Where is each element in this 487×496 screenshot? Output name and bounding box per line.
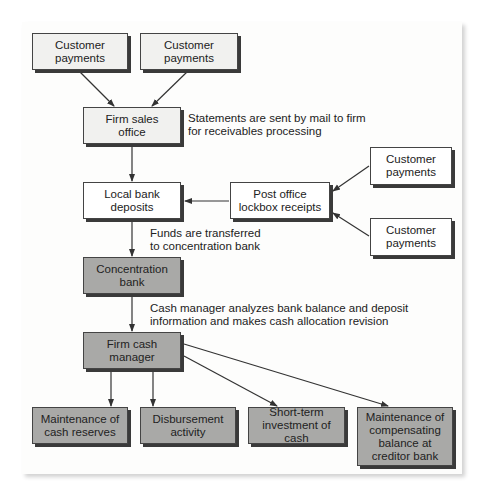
- funds-transfer-note: Funds are transferred to concentration b…: [150, 227, 261, 253]
- firm-cash-manager-box: Firm cashmanager: [83, 332, 181, 369]
- disbursement-activity-box: Disbursementactivity: [140, 407, 236, 444]
- customer-payments-box-4: Customerpayments: [370, 218, 452, 256]
- concentration-bank-box: Concentrationbank: [83, 257, 181, 294]
- local-bank-deposits-box: Local bankdeposits: [83, 182, 181, 219]
- customer-payments-box-3: Customerpayments: [370, 147, 452, 185]
- cash-analysis-note: Cash manager analyzes bank balance and d…: [150, 302, 408, 328]
- statements-note: Statements are sent by mail to firm for …: [188, 112, 366, 138]
- customer-payments-box-2: Customerpayments: [140, 33, 238, 70]
- customer-payments-box-1: Customerpayments: [32, 33, 128, 70]
- post-office-lockbox-box: Post officelockbox receipts: [230, 182, 330, 219]
- cash-reserves-box: Maintenance ofcash reserves: [32, 407, 128, 444]
- firm-sales-office-box: Firm salesoffice: [83, 107, 181, 144]
- compensating-balance-box: Maintenance ofcompensatingbalance atcred…: [357, 407, 453, 466]
- short-term-investment-box: Short-terminvestment of cash: [248, 407, 345, 444]
